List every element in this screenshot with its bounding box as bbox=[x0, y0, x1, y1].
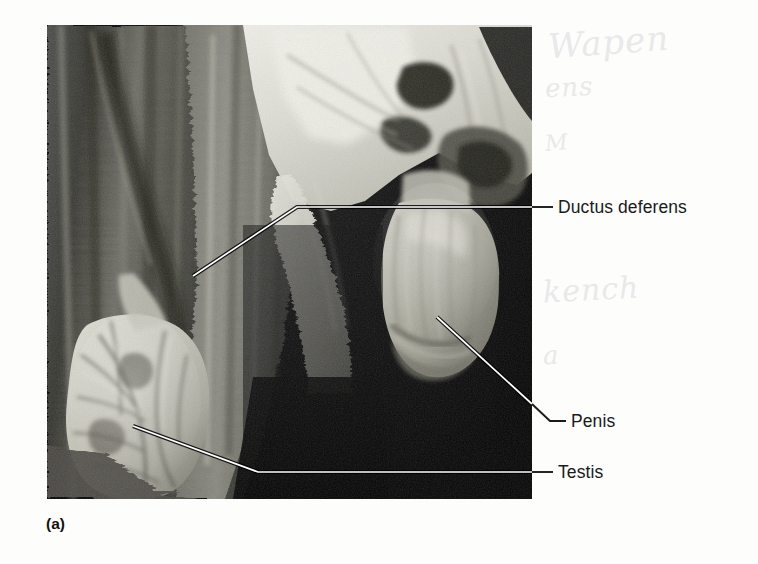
label-testis: Testis bbox=[558, 462, 603, 483]
leader-line-penis-outside bbox=[532, 404, 566, 421]
handwriting-bleed-mark: Wapen bbox=[547, 18, 671, 66]
figure-part-caption: (a) bbox=[46, 515, 65, 533]
handwriting-bleed-mark: ens bbox=[544, 71, 594, 103]
dissection-photograph bbox=[47, 25, 532, 499]
label-penis: Penis bbox=[571, 411, 615, 432]
handwriting-bleed-mark: M bbox=[544, 129, 570, 156]
handwriting-bleed-mark: a bbox=[542, 340, 560, 371]
handwriting-bleed-mark: kench bbox=[542, 270, 640, 310]
label-ductus-deferens: Ductus deferens bbox=[558, 197, 687, 218]
figure-container: Wapen ens M kench a bbox=[0, 0, 758, 564]
